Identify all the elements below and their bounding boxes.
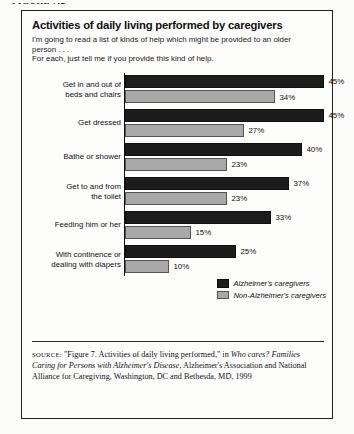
bar-non-alzheimers <box>125 124 244 137</box>
bar-row: 25% <box>125 245 324 258</box>
page-header-text: FIGURE 7.2 <box>12 0 66 6</box>
figure-inner: Activities of daily living performed by … <box>32 19 324 278</box>
bar-value-label: 15% <box>195 228 211 237</box>
bar-row: 37% <box>125 177 324 190</box>
legend-item-alzheimers: Alzheimer's caregivers <box>217 279 326 288</box>
category-label-line: Feeding him or her <box>25 220 121 229</box>
bar-value-label: 23% <box>231 160 247 169</box>
source-part-1: "Figure 7. Activities of daily living pe… <box>62 350 231 359</box>
legend-swatch-icon-non-alzheimers <box>217 291 229 300</box>
category-label-line: the toilet <box>25 191 121 200</box>
bar-value-label: 33% <box>275 213 291 222</box>
bar-non-alzheimers <box>125 158 227 171</box>
bar-group: Feeding him or her33%15% <box>32 209 324 241</box>
bar-non-alzheimers <box>125 192 227 205</box>
source-label: SOURCE: <box>32 351 62 358</box>
category-label-line: Get dressed <box>25 118 121 127</box>
bar-row: 10% <box>125 260 324 273</box>
bar-group: Get dressed45%27% <box>32 107 324 139</box>
bar-value-label: 45% <box>328 77 344 86</box>
category-label: Feeding him or her <box>25 220 121 229</box>
bar-alzheimers <box>125 75 324 88</box>
category-label-line: Get to and from <box>25 182 121 191</box>
legend-label-alzheimers: Alzheimer's caregivers <box>233 279 309 288</box>
bar-value-label: 10% <box>173 262 189 271</box>
bar-row: 23% <box>125 158 324 171</box>
category-label: Bathe or shower <box>25 152 121 161</box>
bar-alzheimers <box>125 143 302 156</box>
bar-alzheimers <box>125 211 271 224</box>
bar-value-label: 25% <box>240 247 256 256</box>
category-label-line: beds and chairs <box>25 89 121 98</box>
category-label: Get in and out ofbeds and chairs <box>25 80 121 99</box>
category-label: Get dressed <box>25 118 121 127</box>
legend-swatch-icon-alzheimers <box>217 279 229 288</box>
bar-row: 34% <box>125 90 324 103</box>
bar-group: Bathe or shower40%23% <box>32 141 324 173</box>
bar-chart-plot: Get in and out ofbeds and chairs45%34%Ge… <box>32 73 324 278</box>
source-note: SOURCE: "Figure 7. Activities of daily l… <box>32 349 324 383</box>
bar-pair: 45%34% <box>125 75 324 106</box>
intro-line-3: For each, just tell me if you provide th… <box>32 54 324 64</box>
bar-non-alzheimers <box>125 226 191 239</box>
bar-value-label: 27% <box>248 126 264 135</box>
bar-alzheimers <box>125 109 324 122</box>
bar-pair: 45%27% <box>125 109 324 140</box>
intro-line-1: I'm going to read a list of kinds of hel… <box>32 35 324 45</box>
bar-row: 23% <box>125 192 324 205</box>
bar-value-label: 23% <box>231 194 247 203</box>
bar-pair: 37%23% <box>125 177 324 208</box>
bar-group: Get to and fromthe toilet37%23% <box>32 175 324 207</box>
bar-pair: 33%15% <box>125 211 324 242</box>
source-divider <box>32 341 324 342</box>
bar-pair: 40%23% <box>125 143 324 174</box>
figure-container: Activities of daily living performed by … <box>21 10 333 419</box>
bar-group: Get in and out ofbeds and chairs45%34% <box>32 73 324 105</box>
category-label-line: Get in and out of <box>25 80 121 89</box>
bar-value-label: 40% <box>306 145 322 154</box>
legend-label-non-alzheimers: Non-Alzheimer's caregivers <box>233 291 326 300</box>
bar-group: With continence ordealing with diapers25… <box>32 243 324 275</box>
figure-page: FIGURE 7.2 Activities of daily living pe… <box>0 0 354 434</box>
category-label-line: dealing with diapers <box>25 259 121 268</box>
bar-non-alzheimers <box>125 260 169 273</box>
bar-groups: Get in and out ofbeds and chairs45%34%Ge… <box>32 73 324 275</box>
bar-row: 40% <box>125 143 324 156</box>
chart-intro: I'm going to read a list of kinds of hel… <box>32 35 324 64</box>
bar-value-label: 37% <box>293 179 309 188</box>
category-label-line: Bathe or shower <box>25 152 121 161</box>
intro-line-2: person . . . <box>32 45 324 55</box>
category-label: Get to and fromthe toilet <box>25 182 121 201</box>
bar-value-label: 45% <box>328 111 344 120</box>
chart-title: Activities of daily living performed by … <box>32 19 324 32</box>
chart-legend: Alzheimer's caregivers Non-Alzheimer's c… <box>217 279 326 302</box>
category-label-line: With continence or <box>25 250 121 259</box>
bar-alzheimers <box>125 245 236 258</box>
bar-alzheimers <box>125 177 289 190</box>
bar-row: 33% <box>125 211 324 224</box>
bar-row: 45% <box>125 75 324 88</box>
category-label: With continence ordealing with diapers <box>25 250 121 269</box>
bar-row: 15% <box>125 226 324 239</box>
bar-row: 27% <box>125 124 324 137</box>
bar-row: 45% <box>125 109 324 122</box>
bar-non-alzheimers <box>125 90 275 103</box>
legend-item-non-alzheimers: Non-Alzheimer's caregivers <box>217 291 326 300</box>
bar-value-label: 34% <box>279 92 295 101</box>
bar-pair: 25%10% <box>125 245 324 276</box>
